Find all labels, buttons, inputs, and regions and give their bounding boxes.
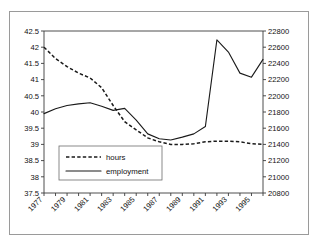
right-axis-tick-label: 22400 xyxy=(268,59,289,68)
x-axis-tick-label: 1991 xyxy=(187,195,205,213)
chart-frame-border: 42.54241.54140.54039.53938.53837.5228002… xyxy=(9,11,309,235)
right-axis-tick-label: 21800 xyxy=(268,108,289,117)
x-axis-tick-label-group: 1989 xyxy=(164,195,182,213)
x-axis-tick-label-group: 1991 xyxy=(187,195,205,213)
left-axis-tick-label: 41.5 xyxy=(24,59,39,68)
series-line-employment xyxy=(44,40,263,140)
left-axis-tick-label: 39.5 xyxy=(24,124,39,133)
left-axis-tick-label: 41 xyxy=(31,75,39,84)
x-axis-tick-label: 1985 xyxy=(118,195,136,213)
left-axis-tick-label: 42 xyxy=(31,43,39,52)
series-line-hours xyxy=(44,47,263,144)
right-axis-tick-label: 21200 xyxy=(268,156,289,165)
x-axis-tick-label: 1987 xyxy=(141,195,159,213)
x-axis-tick-label-group: 1985 xyxy=(118,195,136,213)
x-axis-tick-label-group: 1995 xyxy=(234,195,252,213)
left-axis-tick-label: 40.5 xyxy=(24,92,39,101)
x-axis-tick-label-group: 1983 xyxy=(95,195,113,213)
right-axis-tick-label: 22600 xyxy=(268,43,289,52)
x-axis-tick-label: 1989 xyxy=(164,195,182,213)
x-axis-tick-label-group: 1977 xyxy=(26,195,44,213)
x-axis-tick-label-group: 1993 xyxy=(211,195,229,213)
right-axis-tick-label: 22800 xyxy=(268,27,289,36)
x-axis-tick-label: 1995 xyxy=(234,195,252,213)
right-axis-tick-label: 22200 xyxy=(268,75,289,84)
x-axis-tick-label-group: 1979 xyxy=(49,195,67,213)
left-axis-tick-label: 38.5 xyxy=(24,156,39,165)
left-axis-tick-label: 42.5 xyxy=(24,27,39,36)
right-axis-tick-label: 20800 xyxy=(268,189,289,198)
x-axis-tick-label: 1983 xyxy=(95,195,113,213)
chart-figure: 42.54241.54140.54039.53938.53837.5228002… xyxy=(0,0,318,246)
x-axis-tick-label-group: 1981 xyxy=(72,195,90,213)
chart-canvas: 42.54241.54140.54039.53938.53837.5228002… xyxy=(10,12,308,234)
right-axis-tick-label: 21400 xyxy=(268,140,289,149)
x-axis-tick-label: 1993 xyxy=(211,195,229,213)
left-axis-tick-label: 38 xyxy=(31,173,39,182)
x-axis-tick-label-group: 1987 xyxy=(141,195,159,213)
x-axis-tick-label: 1981 xyxy=(72,195,90,213)
right-axis-tick-label: 21000 xyxy=(268,173,289,182)
legend-label-employment: employment xyxy=(106,167,149,176)
left-axis-tick-label: 39 xyxy=(31,140,39,149)
right-axis-tick-label: 21600 xyxy=(268,124,289,133)
left-axis-tick-label: 40 xyxy=(31,108,39,117)
x-axis-tick-label: 1979 xyxy=(49,195,67,213)
legend-label-hours: hours xyxy=(106,153,126,162)
right-axis-tick-label: 22000 xyxy=(268,92,289,101)
x-axis-tick-label: 1977 xyxy=(26,195,44,213)
